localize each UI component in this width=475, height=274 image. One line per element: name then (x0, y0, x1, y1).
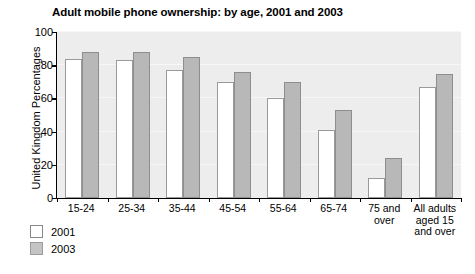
x-axis-labels: 15-2425-3435-4445-5455-6465-7475 andover… (56, 203, 460, 248)
x-tick-mark (310, 198, 311, 202)
bar-2003-15-24[interactable] (82, 52, 99, 198)
x-tick-label-line: and over (410, 226, 461, 238)
bar-2001-65-74[interactable] (318, 130, 335, 198)
bar-2003-all-adults-aged-15-and-over[interactable] (436, 74, 453, 199)
bar-group (360, 32, 411, 198)
x-tick-label: 75 andover (359, 203, 410, 226)
x-tick-label-line: All adults (410, 203, 461, 215)
gray-swatch (30, 242, 43, 255)
x-tick-mark (259, 198, 260, 202)
bar-group (209, 32, 260, 198)
bar-group (57, 32, 108, 198)
x-tick-mark (158, 198, 159, 202)
x-tick-label-line: over (359, 215, 410, 227)
y-tick-label: 100 (23, 26, 53, 38)
bar-group (259, 32, 310, 198)
x-tick-mark (461, 198, 462, 202)
legend-item-2001[interactable]: 2001 (30, 223, 75, 240)
y-tick-label: 80 (23, 59, 53, 71)
x-tick-mark (209, 198, 210, 202)
bar-2003-45-54[interactable] (234, 72, 251, 198)
bar-2001-75-and-over[interactable] (368, 178, 385, 198)
chart-figure: Adult mobile phone ownership: by age, 20… (0, 0, 475, 274)
y-tick-label: 40 (23, 126, 53, 138)
bar-2003-25-34[interactable] (133, 52, 150, 198)
y-tick-label: 20 (23, 159, 53, 171)
x-tick-label: All adultsaged 15and over (410, 203, 461, 238)
bar-2001-all-adults-aged-15-and-over[interactable] (419, 87, 436, 198)
white-swatch (30, 225, 43, 238)
x-tick-label-line: 45-54 (208, 203, 259, 215)
x-tick-label-line: 15-24 (56, 203, 107, 215)
bar-group (158, 32, 209, 198)
x-tick-label: 25-34 (107, 203, 158, 215)
chart-legend: 20012003 (30, 223, 75, 257)
bar-2001-25-34[interactable] (116, 60, 133, 198)
bar-2003-65-74[interactable] (335, 110, 352, 198)
bar-2001-55-64[interactable] (267, 98, 284, 198)
x-tick-mark (411, 198, 412, 202)
x-tick-mark (360, 198, 361, 202)
bar-2001-35-44[interactable] (166, 70, 183, 198)
x-tick-label: 15-24 (56, 203, 107, 215)
x-tick-label-line: 25-34 (107, 203, 158, 215)
bar-2001-45-54[interactable] (217, 82, 234, 198)
bar-group (108, 32, 159, 198)
x-tick-label-line: 75 and (359, 203, 410, 215)
plot-area (56, 32, 461, 199)
x-tick-label-line: 65-74 (309, 203, 360, 215)
x-tick-mark (108, 198, 109, 202)
x-tick-label: 65-74 (309, 203, 360, 215)
bar-2003-75-and-over[interactable] (385, 158, 402, 198)
x-tick-mark (57, 198, 58, 202)
legend-label: 2003 (51, 243, 75, 255)
bar-2001-15-24[interactable] (65, 59, 82, 198)
x-tick-label-line: 55-64 (258, 203, 309, 215)
bar-2003-35-44[interactable] (183, 57, 200, 198)
y-tick-label: 0 (23, 192, 53, 204)
x-tick-label: 45-54 (208, 203, 259, 215)
chart-title: Adult mobile phone ownership: by age, 20… (52, 6, 343, 18)
y-axis-title: United Kingdom Percentages (30, 28, 42, 208)
legend-item-2003[interactable]: 2003 (30, 240, 75, 257)
bars-layer (57, 32, 461, 198)
x-tick-label: 35-44 (157, 203, 208, 215)
legend-label: 2001 (51, 226, 75, 238)
y-tick-label: 60 (23, 92, 53, 104)
bar-group (411, 32, 462, 198)
bar-group (310, 32, 361, 198)
x-tick-label-line: 35-44 (157, 203, 208, 215)
bar-2003-55-64[interactable] (284, 82, 301, 198)
x-tick-label: 55-64 (258, 203, 309, 215)
